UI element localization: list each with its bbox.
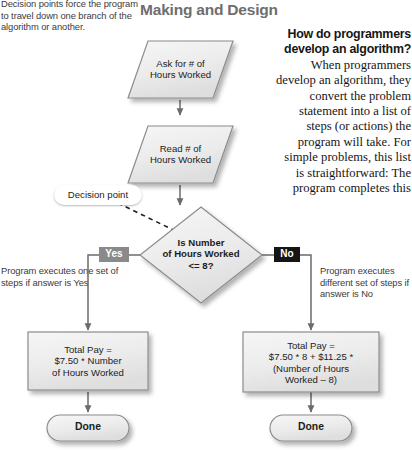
flowchart-canvas [0, 0, 412, 450]
node-process-yes [28, 332, 148, 390]
node-input-read [128, 126, 233, 183]
node-done-left [47, 415, 129, 441]
branch-label-yes: Yes [99, 247, 129, 262]
callout-decision-point: Decision point [54, 185, 142, 205]
connector-no-branch [300, 255, 311, 330]
node-decision [140, 207, 262, 303]
flowchart-page: Making and Design Decision points force … [0, 0, 412, 450]
node-done-right [270, 415, 352, 441]
node-input-ask [128, 41, 233, 98]
branch-label-no: No [274, 247, 300, 262]
connector-yes-branch [88, 255, 99, 330]
node-process-no [243, 332, 379, 392]
